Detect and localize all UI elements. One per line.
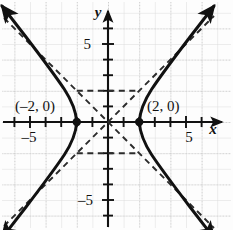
left-vertex-label: (–2, 0) bbox=[15, 98, 55, 115]
y-tick-label-positive-5: 5 bbox=[84, 36, 92, 52]
x-tick-label-negative-5: –5 bbox=[21, 129, 37, 145]
x-tick-label-positive-5: 5 bbox=[185, 129, 193, 145]
right-vertex-label: (2, 0) bbox=[147, 98, 180, 115]
y-tick-label-negative-5: –5 bbox=[77, 192, 93, 208]
vertex-dot-right bbox=[135, 118, 143, 126]
y-axis-label: y bbox=[93, 4, 102, 20]
graph-canvas: x y 5 –5 –5 5 (–2, 0) (2, 0) bbox=[0, 0, 233, 230]
x-axis-label: x bbox=[208, 121, 217, 137]
vertex-dot-left bbox=[73, 118, 81, 126]
hyperbola-graph-figure: x y 5 –5 –5 5 (–2, 0) (2, 0) bbox=[0, 0, 233, 230]
